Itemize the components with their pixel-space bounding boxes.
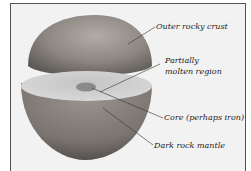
label-partially: Partially xyxy=(165,56,199,66)
label-dark-rock-mantle: Dark rock mantle xyxy=(154,141,225,151)
upper-hemisphere xyxy=(28,15,152,76)
core xyxy=(76,83,96,92)
label-molten-region: molten region xyxy=(165,67,222,77)
label-outer-rocky-crust: Outer rocky crust xyxy=(156,22,228,32)
label-core: Core (perhaps iron) xyxy=(164,113,244,123)
